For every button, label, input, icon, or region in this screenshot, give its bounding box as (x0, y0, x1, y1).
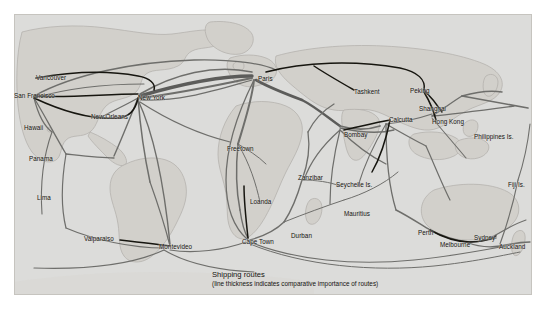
legend-title: Shipping routes (212, 270, 265, 279)
map-screenshot: Vancouver San Francisco New York New Orl… (0, 0, 546, 310)
landmasses (14, 22, 525, 296)
legend-entry-steamship: Steamship route (232, 291, 322, 295)
legend-subtitle: (line thickness indicates comparative im… (212, 280, 378, 287)
map-canvas (14, 14, 532, 295)
legend-entry-railroad: Railroad (436, 291, 499, 295)
map-legend: Shipping routes (line thickness indicate… (212, 270, 532, 295)
world-map: Vancouver San Francisco New York New Orl… (14, 14, 532, 295)
